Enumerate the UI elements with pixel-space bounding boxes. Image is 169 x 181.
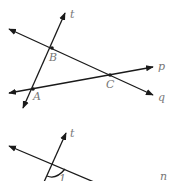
line-t [23,13,65,108]
label-point-b: B [48,51,57,64]
line-p [9,67,153,93]
point-c [108,73,112,77]
label-angle-1: 1 [59,172,66,181]
label-point-c: C [106,78,115,91]
figure-1: t q p A B C [9,8,165,108]
label-line-q: q [158,91,165,104]
label-line-t: t [70,8,75,21]
label-line-t-2: t [70,127,75,140]
line-n-transversal [9,146,94,181]
point-b [50,46,54,50]
geometry-diagram: t q p A B C t 1 n [0,0,169,181]
figure-2: t 1 n [9,127,167,181]
label-line-p: p [158,60,165,73]
label-line-n: n [160,170,167,181]
label-point-a: A [32,90,41,103]
line-q [9,29,153,95]
